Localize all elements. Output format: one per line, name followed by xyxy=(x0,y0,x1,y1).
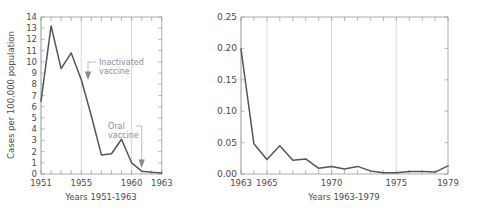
left-ytick-1: 1 xyxy=(32,158,37,168)
left-data-line xyxy=(41,26,162,173)
left-ytick-12: 12 xyxy=(26,34,37,44)
right-ytick-025: 0.25 xyxy=(217,12,237,22)
left-ytick-14: 14 xyxy=(26,12,37,22)
annotation-inactivated-vaccine: Inactivated vaccine xyxy=(85,58,144,80)
left-ytick-11: 11 xyxy=(26,46,37,56)
left-x-ticklabels: 1951 1955 1960 1963 xyxy=(30,178,172,188)
left-ytick-10: 10 xyxy=(26,57,37,67)
chart-panel-right: 0.00 0.05 0.10 0.15 0.20 0.25 1963 1965 … xyxy=(196,0,480,214)
annotation-inactivated-line2: vaccine xyxy=(99,67,130,76)
right-chart-svg: 0.00 0.05 0.10 0.15 0.20 0.25 1963 1965 … xyxy=(196,0,480,214)
right-ytick-015: 0.15 xyxy=(217,75,237,85)
left-chart-svg: 0 1 2 3 4 5 6 7 8 9 10 11 12 13 14 1951 … xyxy=(0,0,200,214)
right-xtick-1965: 1965 xyxy=(256,178,278,188)
left-x-tickmarks xyxy=(41,17,162,174)
annotation-inactivated-line1: Inactivated xyxy=(99,58,144,67)
right-gridlines xyxy=(241,17,396,174)
left-yaxis-title: Cases per 100,000 population xyxy=(6,31,16,159)
left-y-tickmarks xyxy=(41,17,162,174)
left-xtick-1955: 1955 xyxy=(70,178,92,188)
left-xtick-1963: 1963 xyxy=(151,178,173,188)
left-ytick-2: 2 xyxy=(32,147,37,157)
right-plot-frame xyxy=(241,17,448,174)
left-ytick-7: 7 xyxy=(32,91,37,101)
left-ytick-13: 13 xyxy=(26,23,37,33)
chart-panel-left: 0 1 2 3 4 5 6 7 8 9 10 11 12 13 14 1951 … xyxy=(0,0,200,214)
right-x-ticklabels: 1963 1965 1970 1975 1979 xyxy=(230,178,459,188)
left-ytick-3: 3 xyxy=(32,135,37,145)
right-xtick-1975: 1975 xyxy=(385,178,407,188)
right-y-tickmarks xyxy=(241,17,448,174)
left-xtick-1951: 1951 xyxy=(30,178,52,188)
right-data-line xyxy=(241,49,448,173)
right-xtick-1970: 1970 xyxy=(321,178,343,188)
right-ytick-020: 0.20 xyxy=(217,43,237,53)
right-xtick-1979: 1979 xyxy=(437,178,459,188)
right-y-ticklabels: 0.00 0.05 0.10 0.15 0.20 0.25 xyxy=(217,12,237,179)
left-plot-frame xyxy=(41,17,162,174)
left-ytick-9: 9 xyxy=(32,68,37,78)
annotation-oral-line2: vaccine xyxy=(108,131,139,140)
annotation-oral-vaccine: Oral vaccine xyxy=(108,122,145,168)
left-ytick-8: 8 xyxy=(32,79,37,89)
left-xaxis-title: Years 1951-1963 xyxy=(64,192,136,202)
right-ytick-005: 0.05 xyxy=(217,138,237,148)
annotation-oral-line1: Oral xyxy=(108,122,125,131)
right-xtick-1963: 1963 xyxy=(230,178,252,188)
left-xtick-1960: 1960 xyxy=(121,178,143,188)
left-ytick-6: 6 xyxy=(32,102,37,112)
right-xaxis-title: Years 1963-1979 xyxy=(307,192,379,202)
left-ytick-4: 4 xyxy=(32,124,37,134)
right-x-tickmarks xyxy=(241,17,448,174)
figure-container: 0 1 2 3 4 5 6 7 8 9 10 11 12 13 14 1951 … xyxy=(0,0,480,214)
left-ytick-5: 5 xyxy=(32,113,37,123)
right-ytick-010: 0.10 xyxy=(217,106,237,116)
left-y-ticklabels: 0 1 2 3 4 5 6 7 8 9 10 11 12 13 14 xyxy=(26,12,37,179)
